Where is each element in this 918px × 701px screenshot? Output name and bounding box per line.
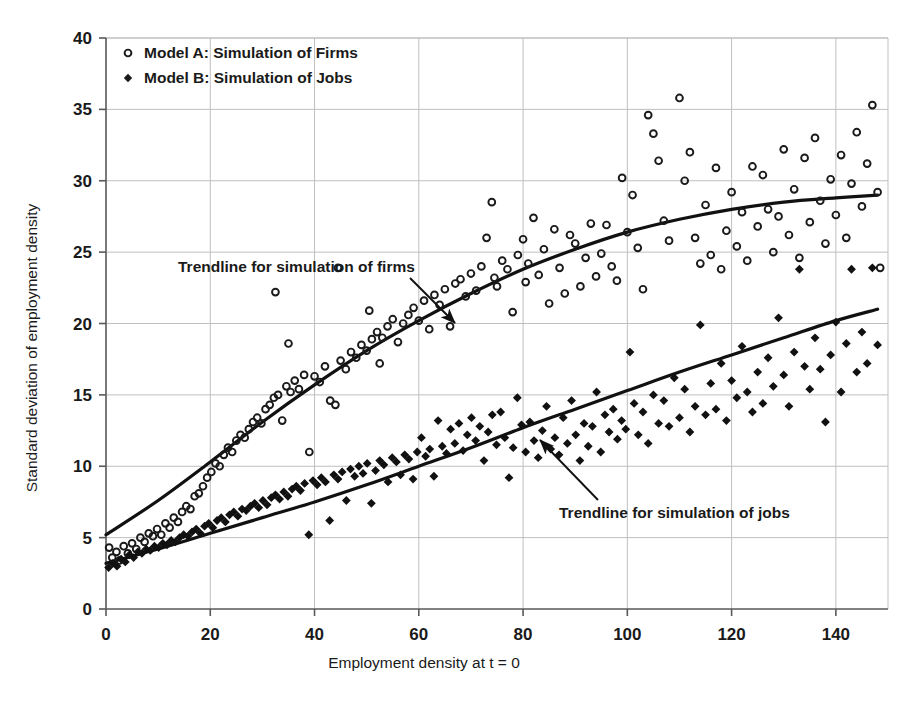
y-tick-label: 30: [73, 172, 92, 191]
annotation-label: Trendline for simulation of firms: [178, 258, 415, 275]
x-tick-label: 100: [613, 625, 641, 644]
y-axis-title: Standard deviation of employment density: [23, 203, 40, 492]
y-tick-label: 15: [73, 386, 92, 405]
legend-label: Model B: Simulation of Jobs: [144, 69, 352, 86]
y-tick-label: 35: [73, 100, 92, 119]
x-tick-label: 60: [409, 625, 428, 644]
legend-label: Model A: Simulation of Firms: [144, 44, 358, 61]
y-tick-label: 5: [83, 529, 92, 548]
y-tick-label: 40: [73, 29, 92, 48]
x-axis-title: Employment density at t = 0: [328, 654, 520, 671]
x-tick-label: 0: [101, 625, 110, 644]
x-tick-label: 20: [201, 625, 220, 644]
x-tick-label: 80: [514, 625, 533, 644]
scatter-chart: 0510152025303540020406080100120140 Trend…: [0, 0, 918, 701]
y-tick-label: 0: [83, 600, 92, 619]
y-tick-label: 10: [73, 457, 92, 476]
y-tick-label: 25: [73, 243, 92, 262]
y-tick-label: 20: [73, 315, 92, 334]
chart-figure: 0510152025303540020406080100120140 Trend…: [0, 0, 918, 701]
annotation-label: Trendline for simulation of jobs: [559, 504, 790, 521]
x-tick-label: 40: [305, 625, 324, 644]
chart-background: [0, 0, 918, 701]
x-tick-label: 120: [717, 625, 745, 644]
x-tick-label: 140: [822, 625, 850, 644]
